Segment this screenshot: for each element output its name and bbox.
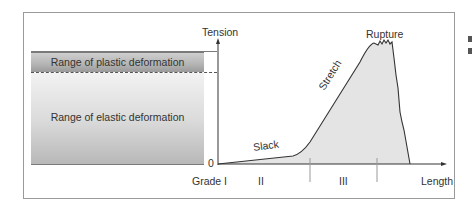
grade-2-label: II xyxy=(258,175,264,187)
grade-1-label: Grade I xyxy=(192,175,227,187)
rupture-label: Rupture xyxy=(366,28,403,40)
grade-3-label: III xyxy=(339,175,348,187)
x-axis-label: Length xyxy=(421,175,453,187)
x-axis-arrow-icon xyxy=(441,162,447,166)
curve-area xyxy=(218,40,410,164)
origin-label: 0 xyxy=(208,157,214,169)
y-axis-arrow-icon xyxy=(216,38,220,44)
y-axis-label: Tension xyxy=(202,26,238,38)
